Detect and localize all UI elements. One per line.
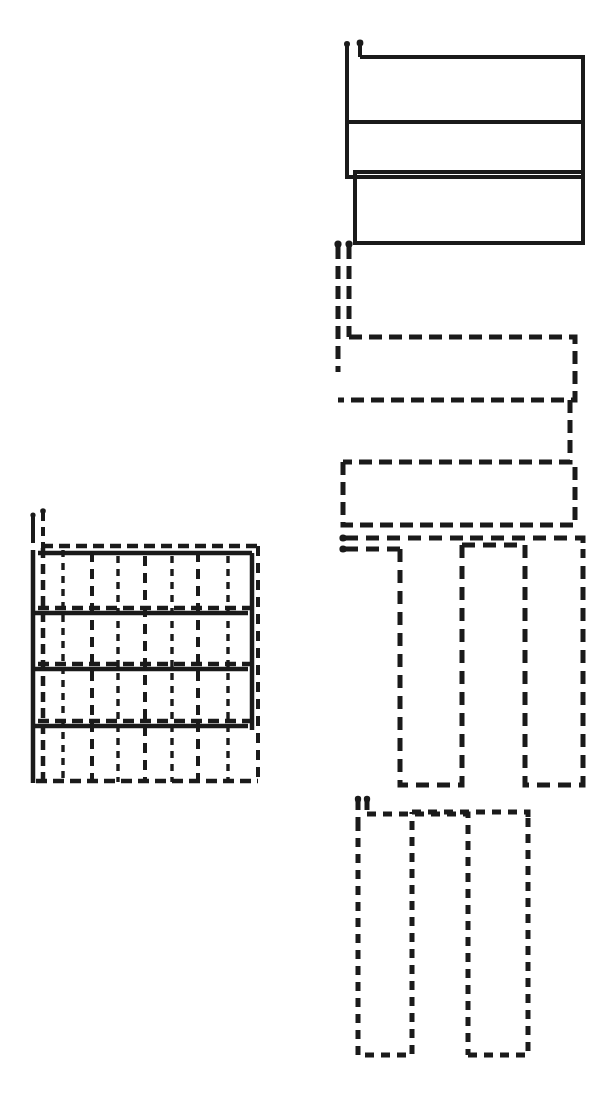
pattern-2-start-dot-a	[334, 240, 341, 247]
pattern-3-start-dot-b	[339, 545, 346, 552]
grid-start-dot-b	[40, 508, 46, 514]
pattern-4-start-dot-b	[364, 796, 370, 802]
figure-background	[0, 0, 613, 1094]
pattern-3-start-dot-a	[339, 534, 346, 541]
pattern-1-start-dot-a	[344, 41, 350, 47]
pattern-2-start-dot-b	[345, 240, 352, 247]
figure-canvas: Serpentine scan path patterns and compos…	[0, 0, 613, 1094]
pattern-1-start-dot-b	[357, 40, 364, 47]
grid-start-dot-a	[30, 512, 35, 517]
serpentine-path-figure	[0, 0, 613, 1094]
pattern-4-start-dot-a	[355, 796, 361, 802]
